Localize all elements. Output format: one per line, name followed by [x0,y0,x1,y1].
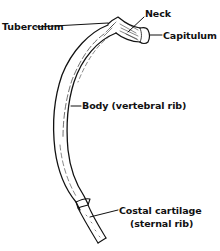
label-body: Body (vertebral rib) [82,100,186,111]
rib-neck-bottom [116,33,140,42]
label-sternal-rib: (sternal rib) [130,218,193,229]
cartilage-inner [88,205,106,238]
cartilage-outer [78,208,98,243]
costal-leader [90,210,118,217]
rib-capitulum-edge [140,28,142,42]
label-tuberculum: Tuberculum [2,21,63,32]
cartilage-end [98,238,106,243]
neck-hatching [104,22,138,40]
label-neck: Neck [145,8,171,19]
rib-shading-line [63,34,104,138]
label-capitulum: Capitulum [163,30,217,41]
rib-inner-edge [67,33,116,204]
rib-outer-edge [54,25,108,210]
rib-diagram: Tuberculum Neck Capitulum Body (vertebra… [0,0,220,251]
label-costal-cartilage: Costal cartilage [119,205,202,216]
